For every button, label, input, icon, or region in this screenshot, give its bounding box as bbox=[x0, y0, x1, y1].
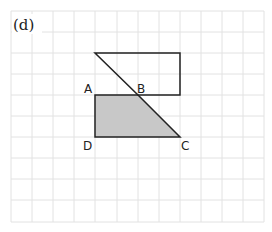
point-label-a: A bbox=[84, 82, 93, 96]
point-label-b: B bbox=[137, 82, 145, 96]
grid-diagram: (d) A B C D bbox=[0, 0, 272, 232]
figure-label: (d) bbox=[13, 16, 34, 34]
point-label-c: C bbox=[181, 139, 189, 153]
point-label-d: D bbox=[83, 139, 92, 153]
